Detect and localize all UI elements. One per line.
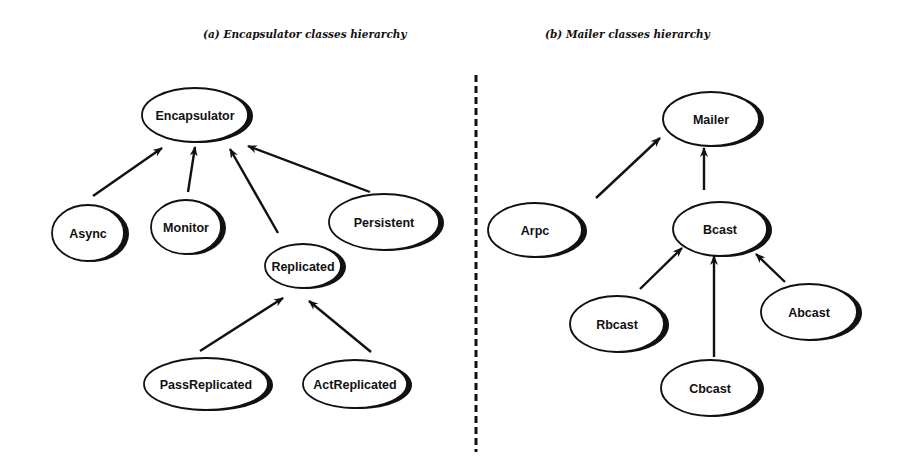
edge-abcast-to-bcast (756, 254, 785, 282)
node-abcast: Abcast (761, 284, 862, 341)
node-label: Bcast (703, 223, 738, 237)
node-async: Async (52, 205, 129, 262)
node-mailer: Mailer (663, 92, 764, 147)
node-rbcast: Rbcast (570, 296, 669, 353)
class-nodes: EncapsulatorAsyncMonitorPersistentReplic… (52, 88, 862, 417)
node-label: Mailer (693, 113, 729, 127)
node-label: PassReplicated (160, 378, 252, 392)
edge-passreplicated-to-replicated (200, 298, 283, 351)
edge-arpc-to-mailer (596, 138, 660, 198)
node-label: ActReplicated (313, 378, 396, 392)
node-replicated: Replicated (265, 244, 346, 289)
edge-async-to-encapsulator (93, 148, 162, 196)
edge-monitor-to-encapsulator (188, 147, 195, 192)
node-label: Async (69, 227, 107, 241)
node-monitor: Monitor (151, 200, 226, 255)
node-label: Monitor (163, 221, 209, 235)
edge-actreplicated-to-replicated (309, 301, 371, 352)
node-persistent: Persistent (329, 194, 444, 251)
node-label: Encapsulator (155, 109, 234, 123)
class-hierarchy-diagram: EncapsulatorAsyncMonitorPersistentReplic… (0, 0, 908, 463)
edge-persistent-to-encapsulator (248, 146, 370, 192)
node-encapsulator: Encapsulator (142, 88, 253, 143)
node-label: Cbcast (689, 382, 732, 396)
node-label: Replicated (271, 260, 334, 274)
node-label: Persistent (354, 216, 415, 230)
node-label: Rbcast (596, 318, 639, 332)
edge-replicated-to-encapsulator (230, 149, 278, 233)
node-cbcast: Cbcast (661, 360, 764, 417)
node-bcast: Bcast (673, 202, 772, 257)
node-label: Arpc (521, 224, 550, 238)
node-passreplicated: PassReplicated (144, 358, 273, 411)
edge-rbcast-to-bcast (640, 248, 682, 289)
node-label: Abcast (788, 306, 831, 320)
node-arpc: Arpc (488, 203, 587, 258)
node-actreplicated: ActReplicated (303, 360, 412, 409)
